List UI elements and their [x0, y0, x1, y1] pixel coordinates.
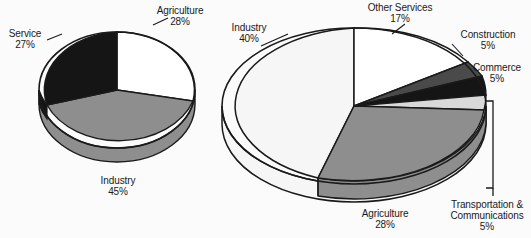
- label-right-transportation: Transportation & Communications 5%: [443, 199, 531, 232]
- label-right-commerce: Commerce 5%: [464, 62, 530, 84]
- label-left-agriculture: Agriculture 28%: [140, 5, 220, 27]
- label-left-service-name: Service: [0, 28, 51, 39]
- label-left-industry: Industry 45%: [85, 175, 151, 197]
- label-right-construction-name: Construction: [446, 29, 530, 40]
- label-right-other-services: Other Services 17%: [354, 2, 446, 24]
- label-right-agriculture: Agriculture 28%: [345, 208, 425, 230]
- label-right-transportation-name: Transportation &: [443, 199, 531, 210]
- label-right-industry-name: Industry: [216, 22, 282, 33]
- left-slice-agriculture: [117, 32, 194, 101]
- label-left-industry-pct: 45%: [85, 186, 151, 197]
- label-right-commerce-name: Commerce: [464, 62, 530, 73]
- label-right-construction: Construction 5%: [446, 29, 530, 51]
- label-right-industry: Industry 40%: [216, 22, 282, 44]
- left-pie-top-face: [39, 32, 195, 148]
- label-right-other-services-name: Other Services: [354, 2, 446, 13]
- label-left-agriculture-name: Agriculture: [140, 5, 220, 16]
- label-right-commerce-pct: 5%: [464, 73, 530, 84]
- label-right-agriculture-name: Agriculture: [345, 208, 425, 219]
- label-right-transportation-name2: Communications: [443, 210, 531, 221]
- label-left-service-pct: 27%: [0, 39, 51, 50]
- label-left-agriculture-pct: 28%: [140, 16, 220, 27]
- label-right-transportation-pct: 5%: [443, 221, 531, 232]
- label-right-industry-pct: 40%: [216, 33, 282, 44]
- figure-canvas: Agriculture 28% Service 27% Industry 45%…: [0, 0, 531, 238]
- leader-right-transportation-bracket: [486, 101, 493, 188]
- label-right-other-services-pct: 17%: [354, 13, 446, 24]
- label-right-agriculture-pct: 28%: [345, 219, 425, 230]
- label-right-construction-pct: 5%: [446, 40, 530, 51]
- label-left-industry-name: Industry: [85, 175, 151, 186]
- label-left-service: Service 27%: [0, 28, 51, 50]
